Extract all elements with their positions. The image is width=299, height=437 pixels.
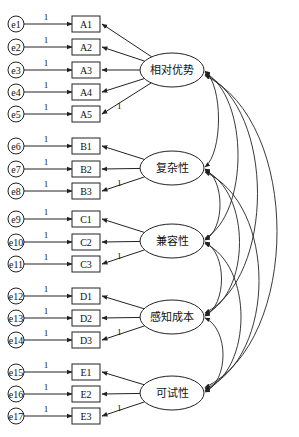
error-term-e10: e10 — [8, 234, 24, 250]
indicator-A2: A2 — [72, 39, 100, 55]
error-path-weight: 1 — [44, 35, 49, 45]
error-term-e14: e14 — [8, 332, 24, 348]
indicator-label: D3 — [80, 335, 92, 346]
error-path-weight: 1 — [44, 328, 49, 338]
error-label: e8 — [11, 186, 20, 197]
indicator-B1: B1 — [72, 138, 100, 154]
indicator-D2: D2 — [72, 310, 100, 326]
indicator-label: A1 — [80, 19, 92, 30]
indicator-A1: A1 — [72, 16, 100, 32]
indicator-A5: A5 — [72, 106, 100, 122]
indicator-label: C2 — [80, 237, 92, 248]
error-term-e9: e9 — [8, 211, 24, 227]
indicator-A4: A4 — [72, 84, 100, 100]
covariance-CP-TR — [205, 244, 241, 391]
indicator-E2: E2 — [72, 386, 100, 402]
error-term-e1: e1 — [8, 16, 24, 32]
error-term-e8: e8 — [8, 183, 24, 199]
latent-label: 复杂性 — [156, 161, 189, 175]
error-path-weight: 1 — [44, 360, 49, 370]
error-label: e4 — [11, 87, 20, 98]
latent-TR: 可试性 — [140, 376, 204, 410]
error-path-weight: 1 — [44, 157, 49, 167]
error-term-e6: e6 — [8, 138, 24, 154]
loading-path — [102, 296, 144, 309]
covariance-RA-TR — [205, 76, 277, 388]
fixed-loading-label: 1 — [117, 327, 122, 337]
error-term-e5: e5 — [8, 106, 24, 122]
indicator-label: E3 — [80, 411, 91, 422]
loading-path — [102, 219, 144, 232]
loading-path — [102, 317, 140, 318]
error-label: e14 — [9, 335, 23, 346]
loading-path — [102, 241, 140, 242]
indicator-E3: E3 — [72, 408, 100, 424]
loading-path — [102, 250, 145, 264]
error-term-e13: e13 — [8, 310, 24, 326]
error-path-weight: 1 — [44, 207, 49, 217]
error-path-weight: 1 — [44, 382, 49, 392]
loading-path — [102, 146, 144, 159]
error-label: e11 — [9, 259, 23, 270]
error-label: e7 — [11, 164, 20, 175]
error-path-weight: 1 — [44, 58, 49, 68]
error-term-e3: e3 — [8, 62, 24, 78]
loading-path — [102, 79, 144, 92]
error-label: e1 — [11, 19, 20, 30]
latent-PC: 感知成本 — [140, 300, 204, 334]
indicator-label: D1 — [80, 291, 92, 302]
latent-label: 兼容性 — [156, 234, 189, 248]
error-path-weight: 1 — [44, 306, 49, 316]
indicator-A3: A3 — [72, 62, 100, 78]
loading-path — [102, 83, 151, 114]
error-label: e5 — [11, 109, 20, 120]
indicator-label: B1 — [80, 141, 92, 152]
indicator-label: A2 — [80, 42, 92, 53]
latent-label: 感知成本 — [150, 310, 194, 324]
error-path-weight: 1 — [44, 284, 49, 294]
covariance-RA-CX — [205, 71, 219, 167]
loading-path — [102, 393, 140, 394]
error-label: e12 — [9, 291, 23, 302]
error-path-weight: 1 — [44, 230, 49, 240]
indicator-label: B2 — [80, 164, 92, 175]
indicator-E1: E1 — [72, 364, 100, 380]
error-term-e2: e2 — [8, 39, 24, 55]
loading-path — [102, 168, 140, 169]
error-term-e17: e17 — [8, 408, 24, 424]
indicator-C2: C2 — [72, 234, 100, 250]
covariance-CX-TR — [205, 172, 259, 389]
error-term-e7: e7 — [8, 161, 24, 177]
indicator-D1: D1 — [72, 288, 100, 304]
latent-RA: 相对优势 — [140, 53, 204, 87]
error-path-weight: 1 — [44, 80, 49, 90]
error-path-weight: 1 — [44, 12, 49, 22]
loading-path — [102, 24, 152, 57]
error-label: e15 — [9, 367, 23, 378]
error-label: e3 — [11, 65, 20, 76]
latent-label: 相对优势 — [150, 63, 194, 77]
error-label: e16 — [9, 389, 23, 400]
sem-diagram: 1111111111111111111111 e1A1e2A2e3A3e4A4e… — [0, 0, 299, 437]
error-term-e16: e16 — [8, 386, 24, 402]
error-label: e6 — [11, 141, 20, 152]
error-path-weight: 1 — [44, 134, 49, 144]
loading-path — [102, 372, 144, 385]
error-term-e12: e12 — [8, 288, 24, 304]
fixed-loading-label: 1 — [117, 101, 122, 111]
error-path-weight: 1 — [44, 252, 49, 262]
indicator-B3: B3 — [72, 183, 100, 199]
loading-path — [102, 177, 145, 191]
error-path-weight: 1 — [44, 404, 49, 414]
covariance-PC-TR — [205, 318, 223, 392]
indicator-label: E2 — [80, 389, 91, 400]
indicator-label: D2 — [80, 313, 92, 324]
indicator-label: A5 — [80, 109, 92, 120]
indicator-label: C3 — [80, 259, 92, 270]
error-label: e13 — [9, 313, 23, 324]
indicator-label: A4 — [80, 87, 92, 98]
error-label: e2 — [11, 42, 20, 53]
loading-path — [102, 47, 145, 61]
fixed-loading-label: 1 — [117, 251, 122, 261]
indicator-label: C1 — [80, 214, 92, 225]
